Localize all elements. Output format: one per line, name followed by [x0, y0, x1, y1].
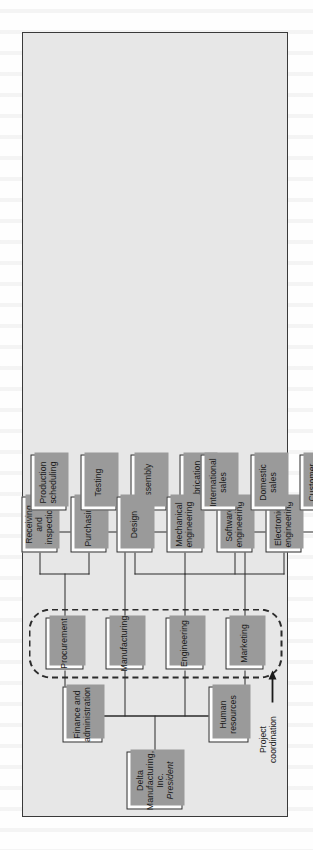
box-testing[interactable]: Testing	[80, 454, 116, 510]
mechanical-label-line2: engineering	[184, 499, 194, 549]
president-title: President	[164, 759, 174, 801]
customer-label-line1: Customer	[307, 461, 313, 503]
pc-label-line1: Project	[257, 726, 267, 753]
box-mechanical-engineering[interactable]: Mechanical engineering	[166, 496, 202, 552]
connector-electronics	[283, 552, 284, 574]
procurement-label: Procurement	[59, 616, 69, 670]
domestic-label-line2: sales	[268, 470, 278, 495]
connector-software	[234, 552, 235, 574]
right-arrow-icon	[265, 669, 279, 703]
pc-label-line2: coordination	[267, 716, 277, 763]
box-finance-administration[interactable]: Finance and administration	[62, 686, 102, 742]
engineering-label: Engineering	[179, 618, 189, 669]
box-customer-service[interactable]: Customer service	[299, 454, 313, 510]
box-engineering[interactable]: Engineering	[165, 617, 203, 669]
connector-design	[134, 552, 135, 574]
connector-mechanical	[184, 552, 185, 574]
project-coordination-label: Project coordination	[258, 703, 278, 775]
box-human-resources[interactable]: Human resources	[208, 686, 248, 742]
finance-label-line2: administration	[82, 685, 92, 744]
international-label-line2: sales	[218, 470, 228, 495]
marketing-label: Marketing	[239, 622, 249, 665]
box-procurement[interactable]: Procurement	[45, 617, 83, 669]
box-president[interactable]: Delta Manufacturing, Inc. President	[126, 751, 182, 809]
design-label: Design	[129, 508, 139, 539]
figure-page: Delta Manufacturing, Inc. President Fina…	[0, 0, 313, 850]
president-company: Delta Manufacturing, Inc.	[134, 748, 164, 812]
org-chart-stage: Delta Manufacturing, Inc. President Fina…	[22, 32, 288, 817]
box-production-scheduling[interactable]: Production scheduling	[30, 454, 66, 510]
box-domestic-sales[interactable]: Domestic sales	[250, 454, 286, 510]
connector-root-stem	[154, 715, 155, 751]
connector-engineering-bus	[134, 573, 284, 574]
testing-label: Testing	[93, 466, 103, 498]
box-manufacturing[interactable]: Manufacturing	[105, 617, 143, 669]
box-design[interactable]: Design	[116, 496, 152, 552]
manufacturing-label: Manufacturing	[119, 613, 129, 673]
connector-purchasing	[88, 552, 89, 574]
human-label-line2: resources	[228, 693, 238, 736]
prodsched-label-line2: scheduling	[48, 459, 58, 505]
box-international-sales[interactable]: International sales	[200, 454, 236, 510]
box-marketing[interactable]: Marketing	[225, 617, 263, 669]
connector-procurement-bus	[39, 573, 89, 574]
figure-frame: Delta Manufacturing, Inc. President Fina…	[22, 32, 288, 817]
connector-receiving	[39, 552, 40, 574]
